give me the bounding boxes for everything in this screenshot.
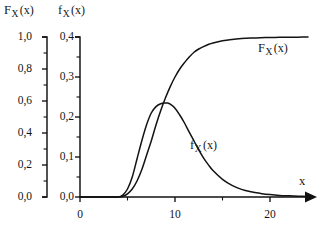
- right-axis-tick-label: 0,3: [46, 71, 74, 83]
- right-axis-header-arg: (x): [70, 3, 85, 17]
- pdf-curve-label-arg: (x): [202, 138, 217, 152]
- cdf-curve-label-subscript: X: [265, 47, 273, 57]
- cdf-curve-label: FX(x): [258, 42, 288, 57]
- left-axis-tick-label: 0,0: [4, 191, 32, 203]
- x-axis-tick-label: 20: [255, 209, 285, 221]
- axes-group: [42, 37, 317, 203]
- right-axis-header-subscript: X: [62, 9, 70, 19]
- pdf-curve-label: fX(x): [190, 139, 217, 154]
- right-axis-tick-label: 0,2: [46, 111, 74, 123]
- right-axis-tick-label: 0,4: [46, 31, 74, 43]
- right-axis-tick-label: 0,1: [46, 151, 74, 163]
- left-axis-header-base: F: [4, 3, 11, 17]
- right-axis-tick-label: 0,0: [46, 191, 74, 203]
- left-axis-tick-label: 1,0: [4, 31, 32, 43]
- right-axis-header: fX(x): [58, 4, 85, 19]
- left-axis-tick-label: 0,8: [4, 63, 32, 75]
- x-axis-label: x: [299, 175, 305, 188]
- left-axis-tick-label: 0,2: [4, 159, 32, 171]
- right-y-axis-ticks: [75, 37, 80, 197]
- x-axis-tick-label: 10: [160, 209, 190, 221]
- left-axis-tick-label: 0,6: [4, 95, 32, 107]
- left-axis-header-arg: (x): [19, 3, 34, 17]
- left-axis-header-subscript: X: [11, 9, 19, 19]
- curves-group: [80, 37, 308, 197]
- cdf-curve-label-arg: (x): [273, 41, 288, 55]
- x-axis-tick-label: 0: [65, 209, 95, 221]
- figure-plot-area: FX(x) fX(x) 1,0 0,8 0,6 0,4 0,2 0,0 0,4 …: [0, 0, 329, 235]
- left-axis-header: FX(x): [4, 4, 34, 19]
- cdf-curve-label-base: F: [258, 41, 265, 55]
- cdf-curve: [80, 37, 308, 197]
- left-axis-tick-label: 0,4: [4, 127, 32, 139]
- pdf-curve-label-subscript: X: [194, 144, 202, 154]
